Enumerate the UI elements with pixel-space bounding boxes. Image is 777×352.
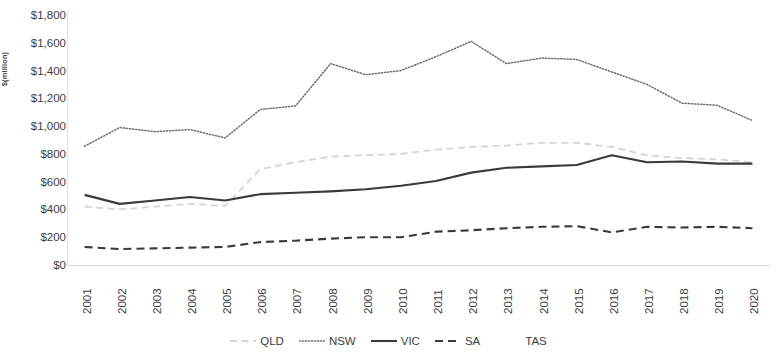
series-line-qld — [85, 143, 753, 210]
legend-label: NSW — [329, 334, 356, 348]
series-lines — [67, 10, 770, 268]
legend-item-nsw[interactable]: NSW — [299, 333, 356, 349]
dotted-swatch — [299, 337, 325, 345]
legend-label: TAS — [525, 334, 547, 348]
y-axis-tick-label: $1,400 — [12, 65, 66, 77]
x-axis-tick-label: 2019 — [712, 268, 726, 314]
x-axis-tick-labels: 2001200220032004200520062007200820092010… — [67, 268, 770, 320]
legend-item-tas[interactable]: TAS — [495, 333, 547, 349]
x-axis-tick-label: 2005 — [220, 268, 234, 314]
x-axis-tick-label: 2013 — [501, 268, 515, 314]
y-axis-tick-label: $800 — [12, 148, 66, 160]
x-axis-tick-label: 2017 — [642, 268, 656, 314]
y-axis-tick-label: $0 — [12, 259, 66, 271]
x-axis-tick-label: 2020 — [747, 268, 761, 314]
x-axis-tick-label: 2018 — [677, 268, 691, 314]
x-axis-tick-label: 2008 — [326, 268, 340, 314]
series-line-nsw — [85, 41, 753, 146]
x-axis-tick-label: 2011 — [431, 268, 445, 314]
x-axis-tick-label: 2004 — [185, 268, 199, 314]
solid-swatch — [371, 337, 397, 345]
series-line-sa — [85, 226, 753, 249]
legend-label: SA — [465, 334, 480, 348]
x-axis-tick-label: 2001 — [80, 268, 94, 314]
y-axis-tick-label: $1,600 — [12, 37, 66, 49]
plot-area — [67, 10, 770, 268]
x-axis-tick-label: 2012 — [466, 268, 480, 314]
y-axis-tick-label: $1,800 — [12, 9, 66, 21]
legend-label: QLD — [260, 334, 284, 348]
dashed-light-swatch — [230, 337, 256, 345]
y-axis-tick-labels: $1,800$1,600$1,400$1,200$1,000$800$600$4… — [12, 0, 66, 280]
x-axis-tick-label: 2006 — [255, 268, 269, 314]
legend-item-sa[interactable]: SA — [435, 333, 480, 349]
legend-item-qld[interactable]: QLD — [230, 333, 284, 349]
x-axis-tick-label: 2007 — [290, 268, 304, 314]
line-chart: $(million) $1,800$1,600$1,400$1,200$1,00… — [0, 0, 777, 352]
y-axis-tick-label: $400 — [12, 203, 66, 215]
x-axis-tick-label: 2002 — [115, 268, 129, 314]
blank-swatch — [495, 337, 521, 345]
dashed-dark-swatch — [435, 337, 461, 345]
x-axis-tick-label: 2009 — [361, 268, 375, 314]
chart-legend: QLDNSWVICSATAS — [0, 330, 777, 352]
series-line-vic — [85, 155, 753, 204]
y-axis-tick-label: $1,000 — [12, 120, 66, 132]
x-axis-tick-label: 2015 — [572, 268, 586, 314]
y-axis-tick-label: $1,200 — [12, 92, 66, 104]
x-axis-tick-label: 2003 — [150, 268, 164, 314]
x-axis-tick-label: 2016 — [607, 268, 621, 314]
legend-label: VIC — [401, 334, 420, 348]
legend-item-vic[interactable]: VIC — [371, 333, 420, 349]
y-axis-tick-label: $600 — [12, 176, 66, 188]
x-axis-tick-label: 2010 — [396, 268, 410, 314]
x-axis-tick-label: 2014 — [537, 268, 551, 314]
y-axis-tick-label: $200 — [12, 231, 66, 243]
